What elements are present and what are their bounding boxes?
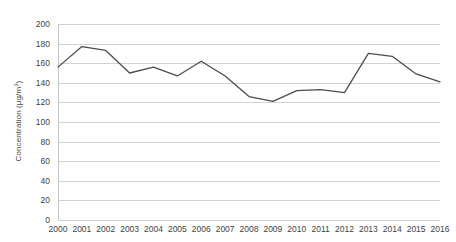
y-axis-tick-label: 200 (0, 19, 50, 29)
data-series-polyline (58, 47, 440, 102)
line-chart: Concentration (μg/m3) 020406080100120140… (0, 0, 456, 242)
y-axis-tick-label: 180 (0, 39, 50, 49)
x-axis-tick-label: 2005 (168, 224, 187, 234)
y-axis-tick-label: 140 (0, 78, 50, 88)
x-axis-tick-label: 2010 (287, 224, 306, 234)
y-axis-tick-label: 20 (0, 195, 50, 205)
x-axis-tick-label: 2013 (359, 224, 378, 234)
y-axis-tick-label: 80 (0, 137, 50, 147)
x-axis-tick-label: 2016 (431, 224, 450, 234)
plot-area (58, 24, 440, 220)
x-axis-tick-label: 2004 (144, 224, 163, 234)
x-axis-tick-label: 2014 (383, 224, 402, 234)
y-axis-tick-label: 40 (0, 176, 50, 186)
x-axis-tick-label: 2012 (335, 224, 354, 234)
x-axis-tick-label: 2003 (120, 224, 139, 234)
x-axis-tick-label: 2009 (263, 224, 282, 234)
y-axis-tick-label: 120 (0, 97, 50, 107)
x-axis-tick-label: 2007 (216, 224, 235, 234)
y-axis-tick-label: 60 (0, 156, 50, 166)
y-axis-tick-label: 160 (0, 58, 50, 68)
x-axis-tick-label: 2006 (192, 224, 211, 234)
series-line (58, 24, 440, 220)
gridline (58, 220, 440, 221)
x-axis-tick-label: 2008 (240, 224, 259, 234)
y-axis-tick-label: 100 (0, 117, 50, 127)
x-axis-tick-label: 2011 (311, 224, 329, 234)
x-axis-tick-label: 2001 (72, 224, 91, 234)
x-axis-tick-label: 2000 (49, 224, 68, 234)
y-axis-tick-label: 0 (0, 215, 50, 225)
y-axis-tick-labels: 020406080100120140160180200 (0, 0, 54, 242)
x-axis-tick-label: 2015 (407, 224, 426, 234)
x-axis-tick-label: 2002 (96, 224, 115, 234)
